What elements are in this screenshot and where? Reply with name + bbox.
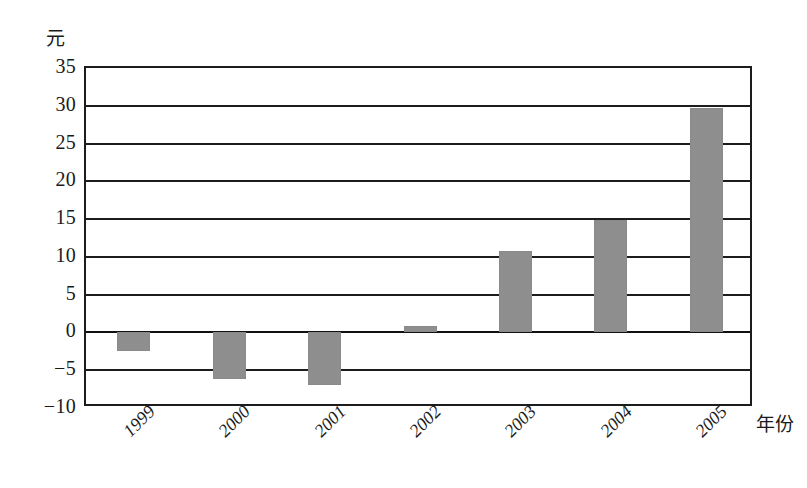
gridline-10	[86, 256, 750, 258]
bar-2005	[690, 108, 723, 332]
y-tick-label: 35	[8, 56, 76, 76]
gridline-30	[86, 105, 750, 107]
y-tick-label: 5	[8, 283, 76, 303]
bar-2004	[594, 220, 627, 333]
y-tick-label: −10	[8, 396, 76, 416]
gridline-25	[86, 143, 750, 145]
x-axis-tick-labels: 1999200020012002200320042005	[84, 406, 752, 488]
gridline-20	[86, 180, 750, 182]
y-tick-label: 25	[8, 132, 76, 152]
gridline-5	[86, 294, 750, 296]
bar-chart: 元 35302520151050−5−10 199920002001200220…	[0, 0, 807, 488]
bar-2001	[308, 332, 341, 385]
x-axis-unit-label: 年份	[756, 413, 794, 435]
bar-2002	[404, 326, 437, 332]
y-axis-tick-labels: 35302520151050−5−10	[0, 66, 76, 406]
y-axis-unit-label: 元	[46, 28, 65, 48]
y-tick-label: −5	[8, 358, 76, 378]
y-tick-label: 15	[8, 207, 76, 227]
gridline--5	[86, 369, 750, 371]
bar-1999	[117, 332, 150, 351]
y-tick-label: 20	[8, 169, 76, 189]
y-tick-label: 30	[8, 94, 76, 114]
gridline-15	[86, 218, 750, 220]
y-tick-label: 0	[8, 320, 76, 340]
bar-2000	[213, 332, 246, 378]
y-tick-label: 10	[8, 245, 76, 265]
bar-2003	[499, 251, 532, 333]
plot-area	[84, 66, 752, 406]
